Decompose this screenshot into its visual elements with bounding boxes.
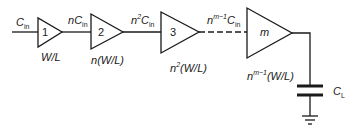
- stage-3-number: 3: [170, 27, 176, 38]
- input-cap-label: Cin: [16, 17, 29, 29]
- stage-2-number: 2: [98, 27, 104, 38]
- stage-2-size-label: n(W/L): [91, 55, 124, 66]
- load-cap-label: CL: [333, 86, 345, 98]
- stage-3-size-label: n2(W/L): [170, 63, 207, 75]
- stage-1-size-label: W/L: [41, 52, 61, 63]
- stage-m-size-label: nm−1(W/L): [247, 71, 294, 83]
- stage-m-number: m: [260, 27, 269, 38]
- node-2-3-label: n2Cin: [131, 15, 154, 27]
- output-wire: [292, 33, 310, 86]
- buffer-stage-2: [91, 14, 123, 49]
- buffer-stage-m: [247, 8, 292, 58]
- node-3-m-label: nm−1Cin: [207, 15, 240, 27]
- node-1-2-label: nCin: [68, 15, 88, 27]
- buffer-stage-3: [161, 12, 199, 53]
- stage-1-number: 1: [42, 27, 48, 38]
